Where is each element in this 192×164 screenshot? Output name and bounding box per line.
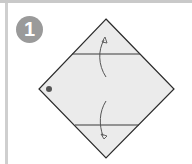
step-panel: 1 bbox=[0, 0, 192, 164]
reference-dot-icon bbox=[46, 86, 52, 92]
paper-diamond bbox=[39, 19, 174, 158]
origami-diagram bbox=[0, 0, 192, 164]
